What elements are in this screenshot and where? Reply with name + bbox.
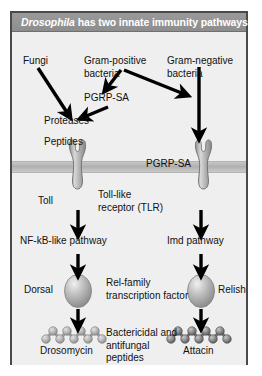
figure-panel: Drosophila has two innate immunity pathw… (10, 11, 248, 365)
arrow-fungi-to-proteases (38, 68, 68, 114)
figure-title-bar: Drosophila has two innate immunity pathw… (12, 13, 246, 32)
label-gram-positive: Gram-positive bacteria (84, 55, 146, 80)
label-rel-family: Rel-family transcription factor (106, 277, 188, 302)
diagram-canvas: Fungi Gram-positive bacteria Gram-negati… (12, 32, 246, 365)
title-remainder: has two innate immunity pathways (75, 16, 248, 28)
label-gram-negative: Gram-negative bacteria (167, 55, 233, 80)
label-proteases: Proteases (44, 115, 89, 128)
label-toll-like-receptor: Toll-like receptor (TLR) (98, 189, 163, 214)
page-title: Drosophila has two innate immunity pathw… (21, 16, 248, 28)
label-toll: Toll (38, 195, 53, 208)
label-dorsal: Dorsal (24, 284, 53, 297)
label-peptides: Peptides (44, 136, 83, 149)
label-pgrp-sa-right: PGRP-SA (146, 158, 191, 171)
label-bactericidal-peptides: Bactericidal and antifungal peptides (106, 327, 177, 365)
title-italic-term: Drosophila (21, 16, 75, 28)
label-attacin: Attacin (183, 345, 214, 358)
label-relish: Relish (218, 284, 246, 297)
label-fungi: Fungi (23, 55, 48, 68)
label-drosomycin: Drosomycin (40, 345, 93, 358)
label-imd-pathway: Imd pathway (167, 235, 224, 248)
label-nfkb-pathway: NF-kB-like pathway (20, 235, 107, 248)
label-pgrp-sa-left: PGRP-SA (84, 92, 129, 105)
